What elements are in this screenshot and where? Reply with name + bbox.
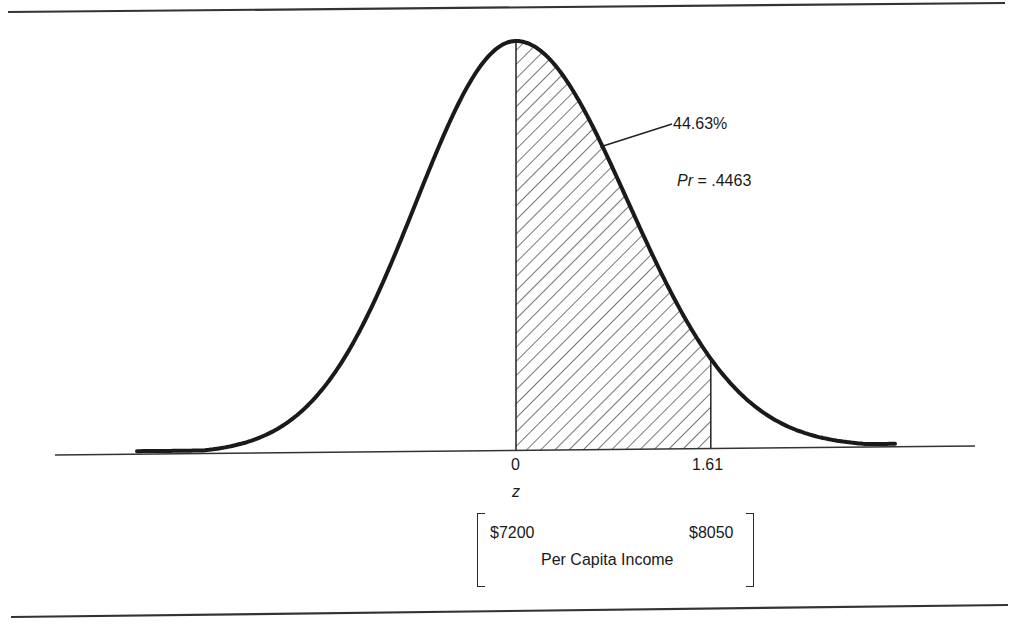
income-axis-title: Per Capita Income bbox=[541, 551, 674, 569]
right-bracket bbox=[746, 513, 754, 587]
bottom-rule bbox=[11, 605, 1008, 617]
probability-value: = .4463 bbox=[693, 172, 751, 189]
left-bracket bbox=[477, 513, 485, 587]
axis-label-z: z bbox=[512, 483, 520, 501]
top-rule bbox=[8, 3, 1005, 12]
probability-label: Pr = .4463 bbox=[677, 172, 751, 190]
tick-label-161: 1.61 bbox=[692, 456, 723, 474]
income-low-label: $7200 bbox=[490, 524, 535, 542]
tick-label-zero: 0 bbox=[511, 456, 520, 474]
area-percent-label: 44.63% bbox=[673, 115, 727, 133]
shaded-area bbox=[516, 41, 711, 451]
income-high-label: $8050 bbox=[689, 524, 734, 542]
annotation-leader-line bbox=[600, 124, 672, 147]
probability-prefix: Pr bbox=[677, 172, 693, 189]
